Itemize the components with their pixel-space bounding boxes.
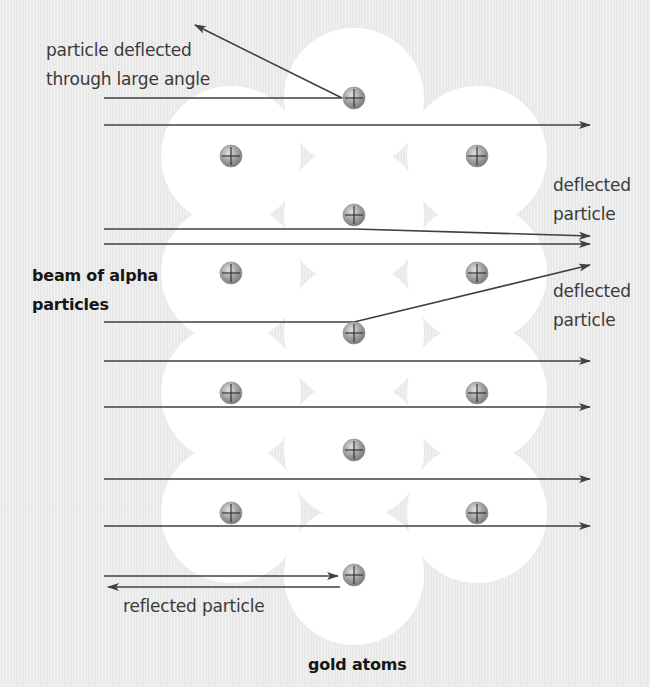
nucleus-plus-icon xyxy=(220,145,242,167)
label-large-angle-line1: particle deflected xyxy=(46,36,210,65)
label-deflected-1-line1: deflected xyxy=(553,171,631,200)
label-deflected-1-line2: particle xyxy=(553,200,631,229)
nucleus-plus-icon xyxy=(343,322,365,344)
label-gold-atoms-text: gold atoms xyxy=(308,650,407,679)
nucleus-plus-icon xyxy=(343,439,365,461)
label-beam-of-alpha-particles: beam of alpha particles xyxy=(32,261,158,319)
label-deflected-particle-1: deflected particle xyxy=(553,171,631,229)
label-reflected-text: reflected particle xyxy=(123,592,264,621)
label-beam-line1: beam of alpha xyxy=(32,261,158,290)
label-reflected-particle: reflected particle xyxy=(123,592,264,621)
nucleus-plus-icon xyxy=(220,382,242,404)
nucleus-plus-icon xyxy=(343,204,365,226)
nucleus-plus-icon xyxy=(220,502,242,524)
nucleus-plus-icon xyxy=(343,87,365,109)
nucleus-plus-icon xyxy=(466,262,488,284)
label-deflected-particle-2: deflected particle xyxy=(553,277,631,335)
nucleus-plus-icon xyxy=(466,502,488,524)
label-large-angle-line2: through large angle xyxy=(46,65,210,94)
nucleus-plus-icon xyxy=(466,145,488,167)
label-gold-atoms: gold atoms xyxy=(308,650,407,679)
nucleus-plus-icon xyxy=(220,262,242,284)
label-deflected-2-line1: deflected xyxy=(553,277,631,306)
label-large-angle: particle deflected through large angle xyxy=(46,36,210,94)
nucleus-plus-icon xyxy=(466,382,488,404)
scattering-diagram xyxy=(0,0,650,687)
label-deflected-2-line2: particle xyxy=(553,306,631,335)
label-beam-line2: particles xyxy=(32,290,158,319)
diagram-canvas: particle deflected through large angle d… xyxy=(0,0,650,687)
nucleus-plus-icon xyxy=(343,564,365,586)
